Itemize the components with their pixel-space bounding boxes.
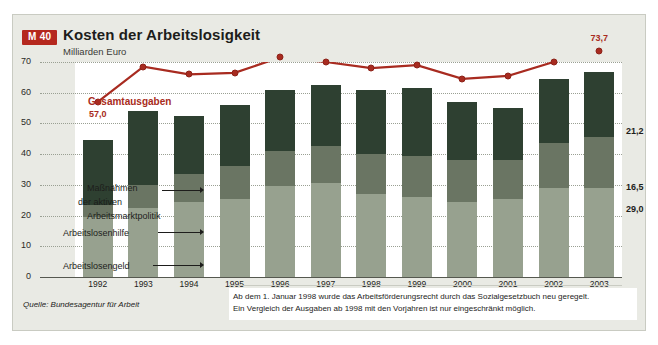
x-axis-label-1993: 1993: [134, 279, 153, 289]
y-tick-label-50: 50: [5, 117, 31, 127]
bar-2002: [539, 62, 569, 277]
x-axis-label-1992: 1992: [88, 279, 107, 289]
bar-segment-2003-2: [584, 137, 614, 188]
bar-1999: [402, 62, 432, 277]
leader-line-arbeitslosenhilfe: [158, 232, 200, 233]
y-tick-label-70: 70: [5, 56, 31, 66]
bar-segment-2001-2: [493, 160, 523, 198]
y-tick-label-20: 20: [5, 210, 31, 220]
leader-arrow-arbeitslosengeld: [200, 262, 204, 268]
bar-segment-1994-3: [174, 116, 204, 174]
module-badge: M 40: [22, 30, 57, 45]
bar-1993: [128, 62, 158, 277]
bar-1997: [311, 62, 341, 277]
bar-segment-1993-3: [128, 111, 158, 185]
bar-segment-1995-1: [220, 199, 250, 277]
right-label-arbeitslosengeld: 29,0: [626, 204, 644, 214]
annotation-massnahmen-line1: Maßnahmen: [87, 183, 138, 193]
line-series-label: Gesamtausgaben: [88, 96, 171, 107]
bar-segment-1992-3: [83, 140, 113, 205]
bar-segment-1998-2: [356, 154, 386, 194]
footnote-block: Ab dem 1. Januar 1998 wurde das Arbeitsf…: [229, 288, 637, 320]
bar-segment-2001-1: [493, 199, 523, 277]
right-label-massnahmen: 21,2: [626, 126, 644, 136]
bar-segment-2002-3: [539, 79, 569, 144]
annotation-massnahmen-line2: der aktiven: [78, 197, 122, 207]
bar-segment-2000-2: [447, 160, 477, 201]
x-axis-line: [40, 277, 622, 278]
bar-segment-1999-2: [402, 156, 432, 197]
bar-segment-1995-2: [220, 166, 250, 198]
page-title: Kosten der Arbeitslosigkeit: [63, 26, 260, 43]
bar-segment-1996-3: [265, 90, 295, 151]
annotation-arbeitslosengeld: Arbeitslosengeld: [63, 261, 130, 271]
bar-segment-2003-3: [584, 72, 614, 137]
annotation-arbeitslosenhilfe: Arbeitslosenhilfe: [63, 228, 129, 238]
leader-line-arbeitslosengeld: [153, 265, 200, 266]
bar-1995: [220, 62, 250, 277]
bar-segment-2003-1: [584, 188, 614, 277]
footnote-line-1: Ab dem 1. Januar 1998 wurde das Arbeitsf…: [233, 291, 633, 303]
bar-1998: [356, 62, 386, 277]
bar-segment-1998-1: [356, 194, 386, 277]
leader-arrow-massnahmen: [200, 187, 204, 193]
y-tick-label-40: 40: [5, 148, 31, 158]
chart-page: M 40 Kosten der Arbeitslosigkeit Milliar…: [0, 0, 658, 345]
bar-segment-1999-3: [402, 88, 432, 156]
bar-1996: [265, 62, 295, 277]
footnote-line-2: Ein Vergleich der Ausgaben ab 1998 mit d…: [233, 303, 633, 315]
bar-segment-1996-2: [265, 151, 295, 186]
bar-2000: [447, 62, 477, 277]
right-label-arbeitslosenhilfe: 16,5: [626, 182, 644, 192]
bar-segment-1999-1: [402, 197, 432, 277]
bar-segment-1997-3: [311, 85, 341, 146]
y-tick-label-30: 30: [5, 179, 31, 189]
y-tick-label-0: 0: [5, 271, 31, 281]
footnote-separator: [229, 285, 622, 286]
leader-line-massnahmen: [162, 190, 200, 191]
bar-segment-1996-1: [265, 186, 295, 277]
bar-segment-2000-1: [447, 202, 477, 277]
bar-1992: [83, 62, 113, 277]
bar-segment-2000-3: [447, 102, 477, 160]
bar-1994: [174, 62, 204, 277]
bar-segment-2002-2: [539, 143, 569, 188]
bar-segment-2001-3: [493, 108, 523, 160]
bar-segment-1997-1: [311, 183, 341, 277]
bars-layer: [75, 62, 622, 277]
leader-arrow-arbeitslosenhilfe: [200, 229, 204, 235]
chart-subtitle: Milliarden Euro: [63, 46, 126, 57]
y-tick-label-60: 60: [5, 87, 31, 97]
bar-segment-1998-3: [356, 90, 386, 155]
bar-segment-1997-2: [311, 146, 341, 183]
x-axis-label-1994: 1994: [179, 279, 198, 289]
source-text: Quelle: Bundesagentur für Arbeit: [23, 300, 139, 309]
annotation-massnahmen-line3: Arbeitsmarktpolitik: [87, 211, 161, 221]
bar-2001: [493, 62, 523, 277]
bar-segment-2002-1: [539, 188, 569, 277]
y-tick-label-10: 10: [5, 240, 31, 250]
bar-2003: [584, 62, 614, 277]
bar-segment-1995-3: [220, 105, 250, 166]
